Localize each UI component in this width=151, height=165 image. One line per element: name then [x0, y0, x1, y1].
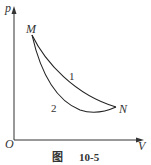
point-n-label: N: [118, 102, 128, 116]
caption-prefix: 图: [52, 151, 63, 163]
curve-2-label: 2: [51, 102, 57, 114]
caption-number: 10-5: [79, 151, 100, 163]
point-m-label: M: [25, 22, 37, 36]
curve-1-label: 1: [69, 70, 75, 82]
y-axis-arrow-icon: [12, 6, 17, 14]
pv-diagram: p V O M N 1 2 图 10-5: [0, 0, 151, 165]
y-axis-label: p: [4, 1, 11, 15]
origin-label: O: [5, 137, 14, 151]
x-axis-label: V: [138, 139, 147, 153]
